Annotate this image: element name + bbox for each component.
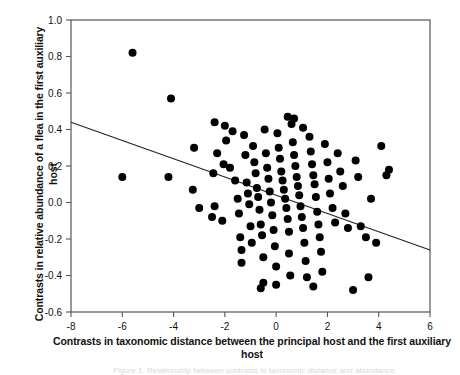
data-point	[195, 204, 203, 212]
data-point	[222, 136, 230, 144]
data-point	[314, 220, 322, 228]
data-point	[236, 233, 244, 241]
data-point	[229, 127, 237, 135]
data-point	[311, 180, 319, 188]
data-point	[300, 239, 308, 247]
data-point	[243, 178, 251, 186]
figure-caption: Figure 1. Relationship between contrasts…	[55, 366, 455, 375]
data-point	[317, 248, 325, 256]
data-point	[325, 175, 333, 183]
data-point	[276, 155, 284, 163]
data-point	[312, 193, 320, 201]
data-point	[254, 193, 262, 201]
data-point	[244, 189, 252, 197]
data-point	[213, 149, 221, 157]
data-point	[270, 226, 278, 234]
data-point	[339, 182, 347, 190]
data-point	[250, 158, 258, 166]
data-point	[167, 94, 175, 102]
data-point	[190, 144, 198, 152]
data-point	[129, 49, 137, 57]
data-point	[279, 177, 287, 185]
data-point	[240, 131, 248, 139]
data-point	[303, 273, 311, 281]
data-point	[262, 149, 270, 157]
data-point	[298, 213, 306, 221]
data-point	[248, 239, 256, 247]
data-point	[309, 282, 317, 290]
data-point	[344, 224, 352, 232]
y-axis-label: Contrasts in relative abundance of a fle…	[32, 24, 60, 324]
data-point	[291, 162, 299, 170]
data-point	[249, 142, 257, 150]
data-point	[226, 164, 234, 172]
data-point	[273, 129, 281, 137]
x-axis-ticks: -8-6-4-20246	[67, 312, 434, 332]
data-point	[323, 158, 331, 166]
x-tick-label: 4	[376, 321, 382, 332]
data-point	[118, 173, 126, 181]
x-tick-label: -2	[220, 321, 229, 332]
data-point	[285, 228, 293, 236]
data-point	[290, 151, 298, 159]
data-point	[238, 246, 246, 254]
data-point	[331, 219, 339, 227]
data-point	[275, 144, 283, 152]
data-point	[293, 173, 301, 181]
data-point	[329, 204, 337, 212]
data-point	[290, 115, 298, 123]
data-point	[261, 126, 269, 134]
data-point	[245, 200, 253, 208]
data-point	[266, 188, 274, 196]
data-point	[349, 286, 357, 294]
data-point	[297, 202, 305, 210]
data-point	[286, 272, 294, 280]
plot-frame	[71, 20, 430, 312]
data-point	[364, 273, 372, 281]
data-point	[271, 242, 279, 250]
data-point	[302, 257, 310, 265]
data-point	[209, 169, 217, 177]
data-point	[284, 215, 292, 223]
data-point	[281, 195, 289, 203]
data-point	[282, 204, 290, 212]
data-point	[377, 142, 385, 150]
data-point	[341, 209, 349, 217]
x-tick-label: -6	[118, 321, 127, 332]
data-point	[357, 222, 365, 230]
data-point	[264, 175, 272, 183]
data-point	[253, 184, 261, 192]
data-point	[308, 160, 316, 168]
data-point	[313, 208, 321, 216]
data-point	[218, 217, 226, 225]
data-point	[259, 253, 267, 261]
data-point	[354, 173, 362, 181]
data-point	[295, 191, 303, 199]
data-point	[247, 222, 255, 230]
data-point	[252, 169, 260, 177]
data-point	[257, 220, 265, 228]
data-point	[289, 138, 297, 146]
data-point	[305, 133, 313, 141]
data-point	[241, 151, 249, 159]
x-axis-label: Contrasts in taxonomic distance between …	[52, 335, 452, 361]
x-tick-label: 0	[273, 321, 279, 332]
data-point	[326, 189, 334, 197]
data-point	[309, 171, 317, 179]
data-point	[211, 118, 219, 126]
data-point	[307, 147, 315, 155]
data-point	[255, 206, 263, 214]
data-point	[263, 164, 271, 172]
data-point	[272, 262, 280, 270]
data-point	[316, 233, 324, 241]
data-point	[189, 186, 197, 194]
data-point	[318, 268, 326, 276]
data-point	[352, 157, 360, 165]
data-point	[267, 199, 275, 207]
data-point	[334, 149, 342, 157]
data-point	[235, 209, 243, 217]
x-tick-label: -4	[169, 321, 178, 332]
x-tick-label: 2	[325, 321, 331, 332]
